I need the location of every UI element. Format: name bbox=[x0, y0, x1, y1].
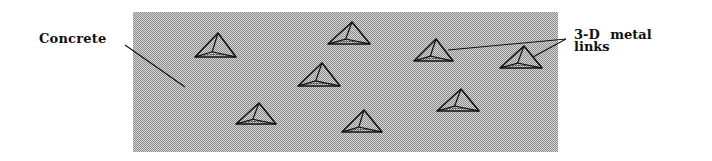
concrete-label: Concrete bbox=[39, 32, 106, 45]
concrete-links-diagram bbox=[0, 0, 712, 161]
metal-links-label: 3-D metal links bbox=[574, 29, 652, 53]
metal-links-label-line2: links bbox=[574, 41, 652, 53]
